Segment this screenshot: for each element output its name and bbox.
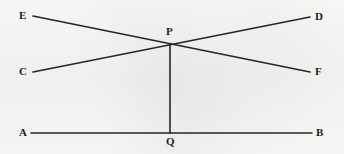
geometry-figure-canvas: E C A D F B P Q [0, 0, 344, 154]
vertex-label-P: P [166, 26, 173, 37]
vertex-label-Q: Q [166, 136, 175, 147]
vertex-label-D: D [315, 11, 323, 22]
vertex-label-F: F [315, 66, 322, 77]
vertex-label-C: C [19, 66, 27, 77]
vertex-label-E: E [19, 10, 27, 21]
geometry-figure-svg [0, 0, 344, 154]
vertex-label-A: A [19, 127, 27, 138]
vertex-label-B: B [316, 127, 324, 138]
